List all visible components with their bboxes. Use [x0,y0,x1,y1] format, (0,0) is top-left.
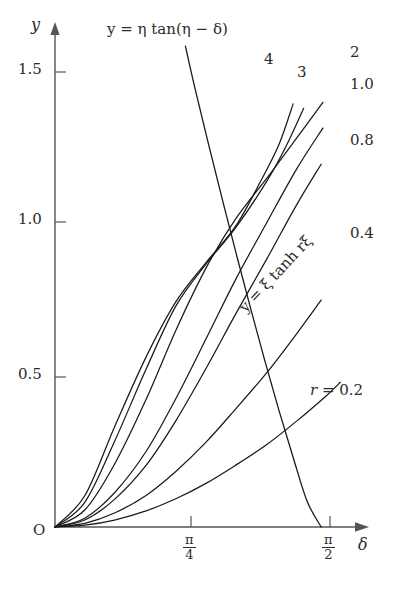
y-tick-label-0-5: 0.5 [18,367,42,382]
curve-label-4: 4 [264,52,274,67]
curve-r-0.2 [55,382,340,527]
curve-label-0-4: 0.4 [350,226,374,241]
curve-group [55,46,340,527]
x-tick-label-pi-over-4: π 4 [183,533,196,561]
curve-r-1.0 [55,128,323,527]
r-symbol: r [310,381,317,399]
curve-label-0-8: 0.8 [350,133,374,148]
curve-label-2: 2 [350,45,360,60]
y-tick-label-1-0: 1.0 [18,212,42,227]
curve-r-2 [55,102,323,527]
plot-canvas [0,0,401,596]
x-axis-arrow [355,522,369,532]
pi-over-4-denominator: 4 [183,547,196,562]
origin-label: O [33,523,45,538]
curve-r-0.8 [55,164,321,527]
pi-over-2-numerator: π [322,533,335,547]
y-axis-label: y [31,17,40,33]
curve-r-4 [55,104,293,527]
axis-group [50,22,369,532]
curve-label-1-0: 1.0 [350,77,374,92]
figure-plot: y δ O 1.5 1.0 0.5 π 4 π 2 y = η tan(η − … [0,0,401,596]
x-axis-label: δ [358,537,368,553]
pi-over-4-numerator: π [183,533,196,547]
y-axis-arrow [50,22,59,35]
tan-equation-label: y = η tan(η − δ) [107,22,228,37]
r-value: 0.2 [339,381,363,399]
pi-over-2-denominator: 2 [322,547,335,562]
r-equals-sign: = [322,381,335,399]
curve-label-3: 3 [297,65,307,80]
y-tick-label-1-5: 1.5 [18,62,42,77]
curve-label-r-0-2: r = 0.2 [310,383,363,398]
x-tick-label-pi-over-2: π 2 [322,533,335,561]
